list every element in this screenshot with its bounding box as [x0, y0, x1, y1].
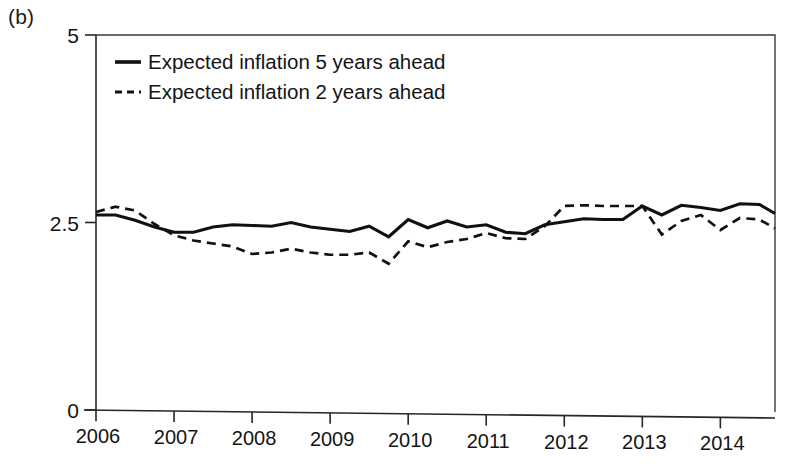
- legend-label: Expected inflation 2 years ahead: [148, 80, 445, 103]
- x-axis-tick-label: 2012: [544, 431, 589, 453]
- series-line-1: [96, 204, 775, 237]
- data-series-layer: [96, 204, 775, 264]
- x-axis-tick-labels: 200620072008200920102011201220132014: [76, 425, 745, 454]
- x-axis-tick-label: 2013: [622, 431, 667, 453]
- inflation-expectations-line-chart: 02.55 2006200720082009201020112012201320…: [0, 0, 792, 464]
- x-axis-tick-label: 2006: [76, 425, 121, 447]
- x-axis-tick-label: 2007: [154, 426, 199, 448]
- x-axis-tick-label: 2008: [232, 427, 277, 449]
- y-axis-tick-label: 2.5: [50, 212, 79, 235]
- x-axis-tick-label: 2014: [700, 432, 745, 454]
- chart-svg: 02.55 2006200720082009201020112012201320…: [0, 0, 792, 464]
- x-axis-line: [84, 410, 775, 418]
- legend-item-5-years: Expected inflation 5 years ahead: [115, 50, 445, 73]
- series-line-2: [96, 205, 775, 264]
- x-axis-tick-label: 2011: [467, 430, 510, 452]
- legend-label: Expected inflation 5 years ahead: [148, 50, 445, 73]
- y-axis-tick-label: 5: [67, 24, 79, 47]
- x-axis-tick-label: 2009: [310, 428, 355, 450]
- legend-item-2-years: Expected inflation 2 years ahead: [115, 80, 445, 103]
- chart-legend: Expected inflation 5 years aheadExpected…: [115, 50, 445, 103]
- y-axis-tick-label: 0: [67, 399, 79, 422]
- y-axis-tick-labels: 02.55: [50, 24, 79, 422]
- x-axis-tick-label: 2010: [388, 429, 433, 451]
